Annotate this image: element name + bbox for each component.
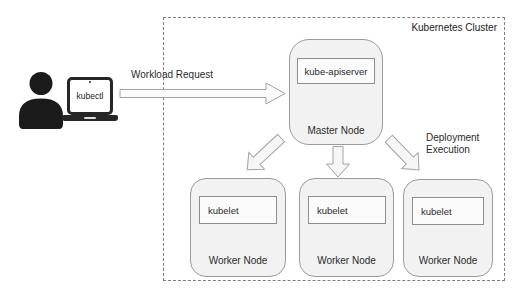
user-icon <box>17 71 65 129</box>
kubelet-label: kubelet <box>421 206 452 217</box>
kube-apiserver-box: kube-apiserver <box>297 58 375 84</box>
worker-node-3-label: Worker Node <box>404 255 492 266</box>
laptop-icon: kubectl <box>67 77 113 115</box>
kubernetes-architecture-diagram: Kubernetes Cluster kubectl Workload Requ… <box>0 0 520 301</box>
deployment-execution-label: Deployment Execution <box>426 132 479 156</box>
master-node-box: kube-apiserver Master Node <box>289 39 383 145</box>
block-arrow-down-icon <box>325 146 351 178</box>
worker-node-1-label: Worker Node <box>191 255 285 266</box>
kubectl-label: kubectl <box>77 91 104 101</box>
master-node-label: Master Node <box>290 125 382 136</box>
laptop-base <box>62 115 118 121</box>
kubelet-box: kubelet <box>412 197 484 225</box>
worker-node-1-box: kubelet Worker Node <box>190 178 286 277</box>
kube-apiserver-label: kube-apiserver <box>305 66 368 77</box>
worker-node-2-box: kubelet Worker Node <box>299 178 394 277</box>
kubelet-box: kubelet <box>199 196 277 224</box>
worker-node-2-label: Worker Node <box>300 255 393 266</box>
kubernetes-cluster-label: Kubernetes Cluster <box>411 22 497 33</box>
kubelet-label: kubelet <box>208 205 239 216</box>
worker-node-3-box: kubelet Worker Node <box>403 179 493 277</box>
kubelet-label: kubelet <box>317 205 348 216</box>
kubelet-box: kubelet <box>308 196 386 224</box>
laptop-camera-dot <box>89 81 91 83</box>
laptop-notch <box>84 117 96 119</box>
workload-request-label: Workload Request <box>131 69 213 80</box>
block-arrow-right-icon <box>119 81 286 106</box>
deployment-label-line2: Execution <box>426 144 479 156</box>
deployment-label-line1: Deployment <box>426 132 479 144</box>
